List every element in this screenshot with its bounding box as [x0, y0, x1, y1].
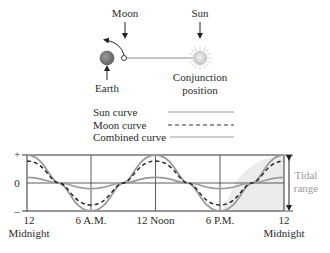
sun-label: Sun — [191, 7, 209, 19]
x-tick-midnight-end-sub: Midnight — [264, 227, 305, 239]
x-tick-midnight-end: 12 — [279, 214, 290, 226]
tidal-range-label-line2: range — [294, 182, 319, 194]
legend: Sun curve Moon curve Combined curve — [93, 106, 234, 143]
legend-label-combined: Combined curve — [93, 131, 166, 143]
legend-label-moon: Moon curve — [93, 119, 147, 131]
x-tick-midnight-start-sub: Midnight — [9, 227, 50, 239]
y-tick-zero: 0 — [14, 177, 20, 189]
x-tick-midnight-start: 12 — [24, 214, 35, 226]
sun-icon — [188, 46, 212, 70]
orbital-diagram: Moon Sun Earth Con — [95, 7, 228, 96]
tide-chart: + 0 – 12 Midnight 6 A.M. 12 Noon 6 P.M. … — [9, 148, 319, 239]
spring-tide-diagram: Moon Sun Earth Con — [0, 0, 330, 253]
y-tick-minus: – — [13, 205, 20, 217]
x-tick-6pm: 6 P.M. — [206, 214, 235, 226]
earth-icon — [100, 51, 114, 65]
conjunction-label-line1: Conjunction — [173, 71, 228, 83]
conjunction-label-line2: position — [182, 84, 218, 96]
x-tick-noon: 12 Noon — [136, 214, 175, 226]
moon-icon — [122, 56, 127, 61]
y-tick-plus: + — [14, 148, 20, 160]
tidal-range-label-line1: Tidal — [295, 169, 318, 181]
x-tick-6am: 6 A.M. — [76, 214, 107, 226]
legend-label-sun: Sun curve — [93, 106, 137, 118]
moon-label: Moon — [112, 7, 139, 19]
earth-label: Earth — [95, 82, 119, 94]
